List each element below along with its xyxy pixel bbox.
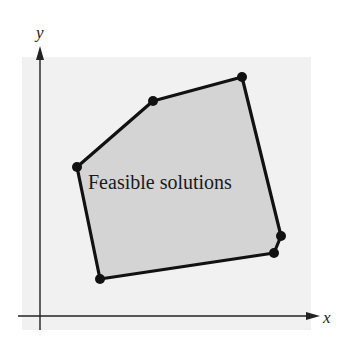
x-axis-label: x (322, 308, 331, 327)
x-axis-arrow-icon (306, 312, 320, 320)
vertex-point (269, 248, 279, 258)
y-axis-arrow-icon (36, 46, 44, 60)
region-label: Feasible solutions (88, 171, 232, 193)
vertex-point (237, 72, 247, 82)
feasible-region-diagram: y x Feasible solutions (0, 0, 345, 341)
y-axis-label: y (34, 23, 44, 42)
vertex-point (276, 231, 286, 241)
vertex-point (72, 162, 82, 172)
vertex-point (95, 274, 105, 284)
vertex-point (148, 96, 158, 106)
